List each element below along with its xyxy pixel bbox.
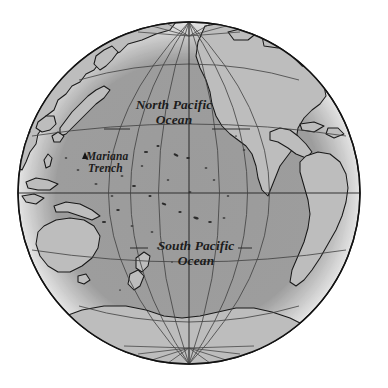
globe-illustration: [0, 0, 388, 388]
globe-map-figure: North Pacific Ocean South Pacific Ocean …: [0, 0, 388, 388]
